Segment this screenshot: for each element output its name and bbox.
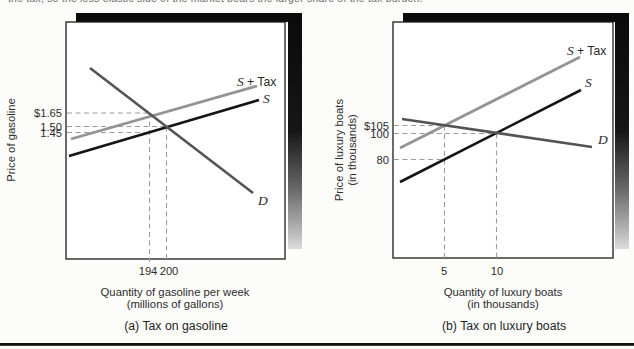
- panel-b-y-axis-title: Price of luxury boats: [333, 98, 345, 201]
- panel-a-ytick-165: $1.65: [34, 107, 62, 119]
- panel-b-x-axis-title: Quantity of luxury boats: [444, 286, 563, 298]
- panel-b-xtick-10: 10: [491, 265, 503, 277]
- bottom-rule: [0, 343, 634, 346]
- panel-b-s-tax-label-suffix: + Tax: [577, 44, 606, 58]
- panel-b-xtick-5: 5: [441, 265, 447, 277]
- panel-a-s-tax-label: S: [237, 74, 244, 89]
- panel-a-plot-box: [66, 22, 285, 259]
- panel-a-ytick-145: 1.45: [40, 127, 62, 139]
- panel-b-x-axis-subtitle: (in thousands): [467, 298, 539, 310]
- panel-a-y-axis-title: Price of gasoline: [5, 98, 17, 182]
- panel-b-s-label: S: [585, 75, 592, 90]
- tax-incidence-figure: S + Tax S D $1.65 1.50 1.45 194 200 Pric…: [0, 0, 634, 349]
- panel-b-caption: (b) Tax on luxury boats: [442, 319, 566, 333]
- panel-b-shadow-right: [615, 13, 629, 249]
- panel-a-shadow-top: [76, 13, 302, 22]
- panel-b-ytick-80: 80: [377, 154, 389, 166]
- panel-b: S + Tax S D $105 100 80 5 10 Price of lu…: [333, 13, 629, 333]
- panel-b-y-axis-title2: (in thousands): [346, 114, 358, 186]
- panel-a-caption: (a) Tax on gasoline: [124, 319, 228, 333]
- panel-a-s-tax-label-suffix: + Tax: [247, 75, 276, 89]
- panel-a-d-label: D: [257, 193, 268, 208]
- panel-b-d-label: D: [597, 132, 608, 147]
- panel-b-s-tax-label: S: [567, 43, 574, 58]
- panel-b-shadow-top: [403, 13, 629, 22]
- panel-a: S + Tax S D $1.65 1.50 1.45 194 200 Pric…: [5, 13, 302, 333]
- panel-a-xtick-200: 200: [160, 265, 179, 277]
- panel-a-shadow-right: [288, 13, 302, 249]
- panel-a-x-axis-subtitle: (millions of gallons): [127, 298, 224, 310]
- panel-a-s-label: S: [263, 91, 270, 106]
- panel-b-ytick-100: 100: [370, 128, 389, 140]
- panel-a-x-axis-title: Quantity of gasoline per week: [101, 286, 250, 298]
- panel-a-xtick-194: 194: [139, 265, 158, 277]
